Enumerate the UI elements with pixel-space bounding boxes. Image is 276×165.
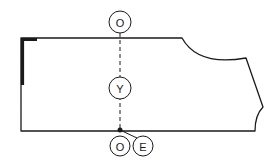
marker-label: Y: [116, 83, 124, 95]
fold-line-marker: [23, 40, 38, 86]
pattern-diagram: O Y O E: [0, 0, 276, 165]
marker-label: O: [116, 17, 125, 29]
marker-bottom-right: E: [133, 136, 153, 156]
marker-bottom-left: O: [110, 136, 130, 156]
pattern-outline: [21, 38, 263, 131]
marker-top: O: [109, 11, 131, 33]
marker-label: O: [116, 141, 125, 153]
marker-label: E: [139, 141, 146, 153]
marker-middle: Y: [109, 77, 131, 99]
